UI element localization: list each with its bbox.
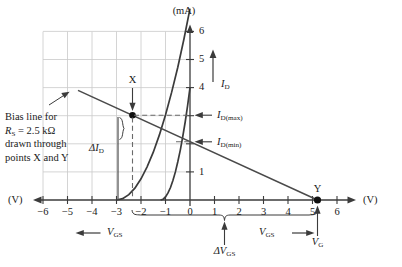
y-axis-unit-label: (mA) — [173, 5, 196, 17]
x-axis-unit-label-right: (V) — [363, 194, 378, 206]
x-tick-label-2: 2 — [236, 206, 241, 218]
x-tick-label-5: 5 — [310, 206, 315, 218]
delta-vgs-label: ΔVGS — [214, 245, 236, 257]
delta-vgs-label-sub: GS — [226, 250, 235, 258]
vgs-left-arrowhead — [76, 230, 84, 236]
point-y-label: Y — [314, 183, 322, 195]
vgs-left-label-sub: GS — [113, 231, 122, 239]
id-min-label: ID(min) — [217, 136, 241, 148]
bias-line-note: Bias line for RS = 2.5 kΩ drawn through … — [5, 110, 68, 165]
delta-id-label-sub: D — [99, 147, 104, 155]
bias-line-note-line-1: Bias line for — [5, 110, 68, 124]
vgs-right-label-sub: GS — [265, 231, 274, 239]
bias-line — [78, 90, 318, 200]
bias-line-note-line-3: drawn through — [5, 137, 68, 151]
delta-vgs-arrowhead — [221, 222, 227, 230]
bias-line-note-line-2: RS = 2.5 kΩ — [5, 124, 68, 138]
vg-label: VG — [312, 236, 324, 248]
vg-arrowhead — [314, 206, 320, 214]
x-tick-label-minus6: −6 — [37, 206, 48, 218]
x-tick-label-1: 1 — [212, 206, 217, 218]
x-tick-label-minus4: −4 — [86, 206, 97, 218]
y-tick-label-4: 4 — [199, 81, 204, 93]
x-tick-label-minus2: −2 — [135, 206, 146, 218]
y-tick-label-5: 5 — [199, 53, 204, 65]
bias-rs-value: = 2.5 kΩ — [15, 125, 55, 136]
point-y-marker — [314, 196, 321, 203]
bias-rs-subscript: S — [11, 130, 15, 138]
delta-id-label-main: ΔI — [89, 142, 99, 153]
id-max-pointer-arrowhead — [195, 112, 203, 118]
x-tick-label-minus3: −3 — [111, 206, 122, 218]
id-axis-label-main: I — [221, 78, 225, 89]
y-tick-label-1: 1 — [199, 166, 204, 178]
id-min-label-main: I — [217, 136, 221, 147]
vgs-right-label: VGS — [259, 226, 275, 238]
y-tick-label-6: 6 — [199, 25, 204, 37]
delta-id-brace — [120, 118, 125, 140]
vg-label-sub: G — [318, 241, 323, 249]
id-axis-label-sub: D — [225, 83, 230, 91]
x-tick-label-6: 6 — [334, 206, 339, 218]
delta-vgs-label-main: ΔV — [214, 245, 227, 256]
x-axis-left-arrowhead — [33, 197, 42, 204]
x-axis-unit-label-left: (V) — [8, 194, 23, 206]
id-min-label-sub: D(min) — [221, 141, 242, 149]
delta-id-label: ΔID — [89, 142, 104, 154]
id-axis-label: ID — [221, 78, 230, 90]
id-max-label-main: I — [217, 109, 221, 120]
x-tick-label-minus5: −5 — [62, 206, 73, 218]
x-tick-label-0: 0 — [187, 206, 192, 218]
bias-line-note-line-4: points X and Y — [5, 151, 68, 165]
id-max-label-sub: D(max) — [221, 114, 243, 122]
point-x-label: X — [129, 74, 137, 86]
x-axis-right-arrowhead — [348, 197, 357, 204]
x-tick-label-4: 4 — [285, 206, 290, 218]
id-max-label: ID(max) — [217, 109, 243, 121]
bias-line-pointer-arrowhead — [61, 92, 69, 99]
point-x-arrowhead — [129, 103, 135, 111]
x-tick-label-minus1: −1 — [160, 206, 171, 218]
jfet-bias-line-chart: (mA) 6 5 4 1 −6 −5 −4 −3 −2 −1 0 1 2 3 4… — [0, 0, 402, 267]
transfer-curve-max — [117, 9, 191, 200]
x-tick-label-3: 3 — [261, 206, 266, 218]
id-direction-arrowhead — [210, 50, 217, 59]
vgs-left-label: VGS — [107, 226, 123, 238]
